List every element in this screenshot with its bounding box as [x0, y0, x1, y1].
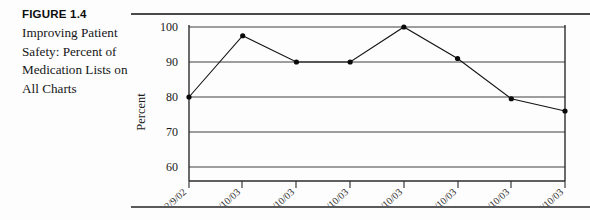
figure-container: FIGURE 1.4 Improving Patient Safety: Per… — [0, 0, 590, 220]
data-point — [509, 96, 514, 101]
chart-svg: Percent 100 90 80 70 60 — [131, 16, 590, 206]
x-tick-label: 4/10/03 — [374, 186, 404, 206]
y-tick-label: 70 — [166, 125, 178, 139]
x-tick-label: 1/10/03 — [212, 186, 242, 206]
figure-title: Improving Patient Safety: Percent of Med… — [22, 24, 130, 98]
x-axis-ticks — [189, 181, 565, 188]
y-tick-label: 100 — [160, 20, 178, 34]
x-tick-label: 5/10/03 — [428, 186, 458, 206]
data-point — [562, 108, 567, 113]
x-tick-label: 2/10/03 — [266, 186, 296, 206]
x-tick-label: 12/9/02 — [158, 186, 188, 206]
figure-caption: FIGURE 1.4 Improving Patient Safety: Per… — [22, 6, 130, 98]
data-point — [401, 24, 406, 29]
figure-top-rule — [131, 13, 590, 15]
y-tick-label: 80 — [166, 90, 178, 104]
figure-bottom-rule — [131, 206, 590, 208]
data-point — [294, 59, 299, 64]
x-tick-label: 8/10/03 — [481, 186, 511, 206]
y-tick-label: 60 — [166, 160, 178, 174]
x-axis-labels: 12/9/02 1/10/03 2/10/03 3/10/03 4/10/03 … — [158, 186, 565, 206]
x-tick-label: 7/10/03 — [535, 186, 565, 206]
figure-number: FIGURE 1.4 — [22, 6, 130, 22]
y-axis-ticks: 100 90 80 70 60 — [160, 20, 178, 174]
x-tick-label: 3/10/03 — [320, 186, 350, 206]
data-point — [455, 56, 460, 61]
y-tick-label: 90 — [166, 55, 178, 69]
y-axis-label: Percent — [134, 93, 148, 131]
series-markers — [186, 24, 567, 113]
line-chart: Percent 100 90 80 70 60 — [131, 16, 590, 206]
data-point — [348, 59, 353, 64]
data-point — [240, 33, 245, 38]
data-point — [186, 94, 191, 99]
series-line — [189, 27, 565, 111]
